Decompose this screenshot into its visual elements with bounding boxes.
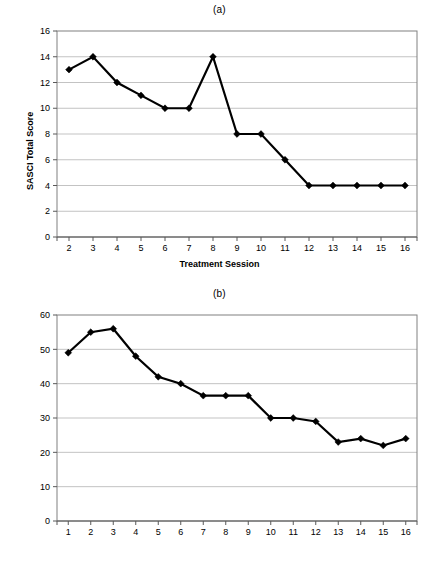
- y-tick-label: 2: [45, 206, 50, 216]
- y-tick-label: 30: [40, 413, 50, 423]
- x-tick-label: 4: [114, 243, 119, 253]
- x-tick-label: 11: [289, 527, 298, 537]
- x-tick-label: 13: [328, 243, 338, 253]
- y-tick-label: 16: [40, 26, 50, 36]
- x-tick-label: 1: [66, 527, 71, 537]
- y-tick-label: 60: [40, 310, 50, 320]
- x-tick-label: 12: [311, 527, 321, 537]
- y-tick-label: 4: [45, 181, 50, 191]
- panel-a-x-axis-title: Treatment Session: [0, 259, 439, 269]
- data-point-marker: [222, 392, 229, 399]
- data-point-marker: [234, 131, 241, 138]
- x-tick-label: 10: [256, 243, 266, 253]
- y-tick-label: 10: [40, 103, 50, 113]
- data-point-marker: [357, 435, 364, 442]
- data-point-marker: [186, 105, 193, 112]
- y-tick-label: 10: [40, 482, 50, 492]
- data-point-marker: [330, 182, 337, 189]
- x-tick-label: 14: [352, 243, 362, 253]
- x-tick-label: 9: [234, 243, 239, 253]
- x-tick-label: 11: [280, 243, 289, 253]
- y-tick-label: 40: [40, 379, 50, 389]
- x-tick-label: 5: [138, 243, 143, 253]
- y-tick-label: 50: [40, 345, 50, 355]
- chart-panel-b: (b) 010203040506012345678910111213141516…: [0, 284, 439, 568]
- x-tick-label: 6: [162, 243, 167, 253]
- x-tick-label: 5: [156, 527, 161, 537]
- x-tick-label: 3: [111, 527, 116, 537]
- x-tick-label: 16: [400, 243, 410, 253]
- panel-b-chart-svg: 010203040506012345678910111213141516: [0, 284, 439, 568]
- chart-panel-a: (a) 02468101214162345678910111213141516 …: [0, 0, 439, 284]
- series-line: [69, 57, 405, 186]
- x-tick-label: 2: [66, 243, 71, 253]
- x-tick-label: 15: [378, 527, 388, 537]
- x-tick-label: 13: [333, 527, 343, 537]
- x-tick-label: 14: [356, 527, 366, 537]
- panel-a-y-axis-title: SASCI Total Score: [25, 112, 35, 190]
- data-point-marker: [380, 442, 387, 449]
- y-tick-label: 0: [45, 232, 50, 242]
- x-tick-label: 16: [401, 527, 411, 537]
- y-tick-label: 8: [45, 129, 50, 139]
- y-tick-label: 0: [45, 516, 50, 526]
- panel-a-chart-svg: 02468101214162345678910111213141516: [0, 0, 439, 284]
- data-point-marker: [210, 53, 217, 60]
- x-tick-label: 3: [90, 243, 95, 253]
- y-tick-label: 6: [45, 155, 50, 165]
- panel-b-plot-area: 010203040506012345678910111213141516: [0, 284, 439, 568]
- x-tick-label: 10: [266, 527, 276, 537]
- x-tick-label: 8: [223, 527, 228, 537]
- data-point-marker: [402, 435, 409, 442]
- data-point-marker: [402, 182, 409, 189]
- y-tick-label: 20: [40, 448, 50, 458]
- x-tick-label: 12: [304, 243, 314, 253]
- x-tick-label: 15: [376, 243, 386, 253]
- x-tick-label: 7: [186, 243, 191, 253]
- data-point-marker: [354, 182, 361, 189]
- x-tick-label: 4: [133, 527, 138, 537]
- x-tick-label: 6: [178, 527, 183, 537]
- x-tick-label: 8: [210, 243, 215, 253]
- figure-container: (a) 02468101214162345678910111213141516 …: [0, 0, 439, 568]
- panel-a-plot-area: 02468101214162345678910111213141516: [0, 0, 439, 284]
- data-point-marker: [378, 182, 385, 189]
- x-tick-label: 7: [201, 527, 206, 537]
- y-tick-label: 14: [40, 52, 50, 62]
- data-point-marker: [290, 415, 297, 422]
- x-tick-label: 2: [88, 527, 93, 537]
- series-line: [68, 329, 406, 446]
- x-tick-label: 9: [246, 527, 251, 537]
- y-tick-label: 12: [40, 78, 50, 88]
